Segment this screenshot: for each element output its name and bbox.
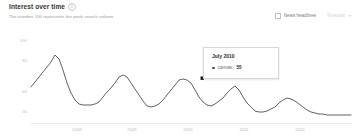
y-tick-40: 40 — [22, 109, 27, 114]
tooltip-series-row: canvas: 55 — [212, 65, 242, 71]
x-axis-tick-labels: 2008 2009 2010 2011 2012 — [72, 127, 305, 132]
trend-line — [31, 55, 351, 115]
forecast-select[interactable]: Forecast — [327, 13, 352, 19]
news-headlines-toggle[interactable]: News headlines — [275, 13, 316, 19]
y-tick-60: 60 — [22, 89, 27, 94]
x-tick-2009: 2009 — [127, 127, 137, 132]
info-icon[interactable]: i — [68, 3, 76, 11]
news-headlines-label: News headlines — [284, 13, 316, 19]
tooltip-date: July 2010 — [212, 53, 235, 60]
trends-line-chart[interactable]: 100 80 60 40 2008 2009 2010 2011 2012 — [0, 30, 358, 140]
header-controls: News headlines Forecast — [275, 13, 352, 19]
title-row: Interest over time i — [9, 3, 76, 11]
tooltip-value: 55 — [236, 65, 241, 71]
panel-subtitle: The number 100 represents the peak searc… — [9, 14, 113, 20]
x-tick-2012: 2012 — [295, 127, 305, 132]
y-axis-tick-labels: 100 80 60 40 — [20, 38, 28, 114]
x-tick-2010: 2010 — [183, 127, 193, 132]
x-tick-2008: 2008 — [72, 127, 82, 132]
chart-tooltip: July 2010 canvas: 55 — [203, 47, 279, 79]
interest-over-time-panel: Interest over time i The number 100 repr… — [0, 0, 358, 140]
x-tick-2011: 2011 — [239, 127, 249, 132]
news-headlines-checkbox[interactable] — [275, 13, 281, 19]
panel-header: Interest over time i The number 100 repr… — [0, 0, 358, 30]
tooltip-series-label: canvas: — [218, 65, 234, 71]
chevron-down-icon[interactable] — [348, 15, 352, 17]
forecast-label: Forecast — [327, 13, 345, 19]
y-tick-100: 100 — [20, 38, 28, 43]
chart-svg: 100 80 60 40 2008 2009 2010 2011 2012 — [0, 30, 358, 140]
series-color-dot — [212, 67, 215, 70]
y-tick-80: 80 — [22, 58, 27, 63]
page-title: Interest over time — [9, 3, 65, 11]
